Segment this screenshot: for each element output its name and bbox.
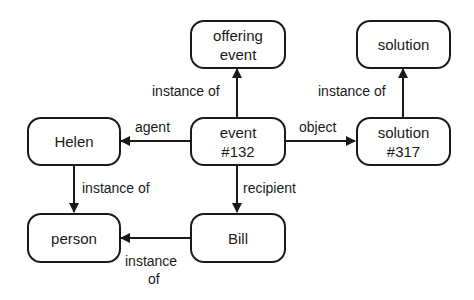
node-helen: Helen xyxy=(27,117,121,166)
edge-label-solution317-instance-of: instance of xyxy=(318,83,386,100)
edge-label-bill-instance-of-2: of xyxy=(148,271,160,288)
node-label: event xyxy=(220,45,257,64)
node-label: offering xyxy=(213,26,263,45)
edge-label-event-instance-of: instance of xyxy=(152,83,220,100)
node-offering-event: offering event xyxy=(190,20,286,69)
node-label: person xyxy=(51,229,97,248)
edge-label-recipient: recipient xyxy=(243,180,296,197)
node-label: Helen xyxy=(54,132,93,151)
node-label: event xyxy=(220,123,257,142)
node-label: solution xyxy=(378,123,430,142)
node-person: person xyxy=(27,213,121,263)
edge-label-object: object xyxy=(299,119,336,136)
node-event-132: event #132 xyxy=(190,117,286,166)
edge-label-agent: agent xyxy=(135,119,170,136)
node-label: #317 xyxy=(387,142,420,161)
node-solution-317: solution #317 xyxy=(356,117,451,166)
node-label: #132 xyxy=(221,142,254,161)
node-solution: solution xyxy=(356,20,451,69)
node-bill: Bill xyxy=(190,213,286,263)
node-label: solution xyxy=(378,35,430,54)
node-label: Bill xyxy=(228,229,248,248)
edge-label-helen-instance-of: instance of xyxy=(82,180,150,197)
edge-label-bill-instance-of: instance xyxy=(125,253,177,270)
